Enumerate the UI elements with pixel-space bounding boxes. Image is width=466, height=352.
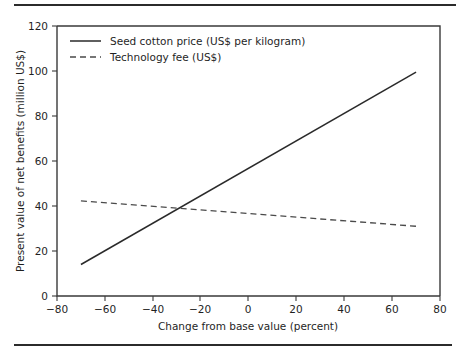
y-tick-label-100: 100 xyxy=(28,65,48,77)
x-tick-label-neg60: −60 xyxy=(94,303,116,315)
y-tick-label-60: 60 xyxy=(35,155,48,167)
series-line-seed-cotton-price xyxy=(81,72,416,264)
y-tick-label-20: 20 xyxy=(35,245,48,257)
y-tick-label-0: 0 xyxy=(41,290,48,302)
x-tick-label-40: 40 xyxy=(337,303,350,315)
y-tick-label-40: 40 xyxy=(35,200,48,212)
x-axis-ticks xyxy=(57,296,440,301)
x-axis-title: Change from base value (percent) xyxy=(158,320,338,332)
axis-frame xyxy=(57,26,440,296)
y-tick-label-80: 80 xyxy=(35,110,48,122)
series-line-technology-fee xyxy=(81,201,416,226)
y-axis-title: Present value of net benefits (million U… xyxy=(14,50,26,272)
x-tick-label-60: 60 xyxy=(385,303,398,315)
legend-label-seed-cotton-price: Seed cotton price (US$ per kilogram) xyxy=(110,35,305,47)
x-tick-label-neg40: −40 xyxy=(142,303,164,315)
x-tick-label-80: 80 xyxy=(433,303,446,315)
figure-container: 0 20 40 60 80 100 120 −80 −60 −40 −20 0 xyxy=(0,0,466,352)
x-tick-label-20: 20 xyxy=(289,303,302,315)
x-tick-label-neg80: −80 xyxy=(46,303,68,315)
line-chart: 0 20 40 60 80 100 120 −80 −60 −40 −20 0 xyxy=(0,0,466,352)
y-tick-label-120: 120 xyxy=(28,20,48,32)
y-axis-ticks xyxy=(52,26,57,296)
chart-legend: Seed cotton price (US$ per kilogram) Tec… xyxy=(70,35,305,63)
legend-label-technology-fee: Technology fee (US$) xyxy=(109,51,221,63)
y-axis-tick-labels: 0 20 40 60 80 100 120 xyxy=(28,20,48,302)
x-tick-label-0: 0 xyxy=(245,303,252,315)
axis-frame-box xyxy=(57,26,440,296)
x-tick-label-neg20: −20 xyxy=(189,303,211,315)
x-axis-tick-labels: −80 −60 −40 −20 0 20 40 60 80 xyxy=(46,303,447,315)
